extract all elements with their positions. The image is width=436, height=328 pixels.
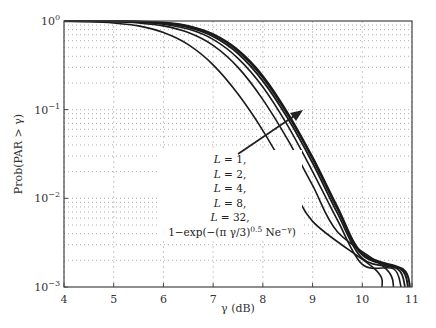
y-axis: 10010−110−210−3 [34, 13, 68, 294]
y-axis-label: Prob(PAR > γ) [12, 114, 25, 194]
increasing-L-arrow [238, 110, 303, 154]
legend-entry: L = 2, [213, 168, 246, 180]
y-tick-label: 10−2 [34, 190, 60, 205]
x-axis-label: γ (dB) [221, 302, 255, 315]
chart: 4567891011 10010−110−210−3 L = 1,L = 2,L… [0, 0, 436, 328]
x-tick-label: 4 [61, 293, 68, 306]
x-tick-label: 7 [210, 293, 217, 306]
y-tick-label: 10−3 [34, 279, 60, 294]
legend-entry: L = 4, [213, 182, 246, 194]
x-tick-label: 5 [110, 293, 117, 306]
y-tick-label: 100 [41, 13, 60, 28]
x-tick-label: 9 [309, 293, 316, 306]
x-tick-label: 6 [160, 293, 167, 306]
legend-entry: 1−exp(−(π γ/3)0.5 Ne−γ) [168, 225, 296, 238]
legend-entry: L = 8, [213, 197, 246, 209]
y-tick-label: 10−1 [34, 102, 60, 117]
x-tick-label: 8 [259, 293, 266, 306]
x-tick-label: 11 [405, 293, 419, 306]
legend-entry: L = 32, [209, 211, 249, 223]
x-tick-label: 10 [355, 293, 369, 306]
legend-entry: L = 1, [213, 153, 246, 165]
